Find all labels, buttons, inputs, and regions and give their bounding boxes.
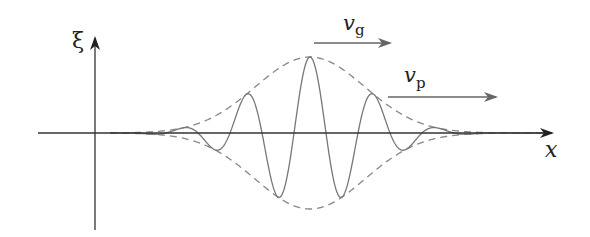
envelope-upper xyxy=(110,57,545,133)
x-axis-label: x xyxy=(545,137,558,162)
wave-packet-curve xyxy=(110,57,545,197)
phase-velocity-label: v p xyxy=(404,63,426,92)
xi-axis-label: ξ xyxy=(72,28,84,53)
svg-text:g: g xyxy=(355,21,365,39)
wave-packet-diagram: ξ x v g v p xyxy=(0,0,590,237)
group-velocity-label: v g xyxy=(343,11,365,39)
svg-text:v: v xyxy=(404,63,416,87)
svg-text:p: p xyxy=(416,74,426,92)
svg-text:v: v xyxy=(343,11,355,35)
